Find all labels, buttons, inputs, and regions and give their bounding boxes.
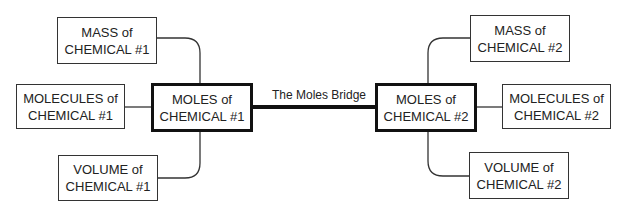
box-label-line1: VOLUME of bbox=[73, 161, 142, 178]
molecules-chemical-2-box: MOLECULES of CHEMICAL #2 bbox=[502, 84, 611, 129]
box-label-line1: MASS of bbox=[494, 22, 545, 39]
box-label-line1: MOLES of bbox=[172, 91, 232, 108]
box-label-line2: CHEMICAL #1 bbox=[28, 107, 113, 124]
box-label-line2: CHEMICAL #1 bbox=[65, 41, 150, 58]
moles-chemical-2-box: MOLES of CHEMICAL #2 bbox=[375, 83, 477, 132]
moles-chemical-1-box: MOLES of CHEMICAL #1 bbox=[151, 83, 253, 132]
box-label-line1: MOLECULES of bbox=[509, 90, 604, 107]
molecules-chemical-1-box: MOLECULES of CHEMICAL #1 bbox=[16, 84, 125, 129]
box-label-line1: MASS of bbox=[81, 24, 132, 41]
mass-chemical-2-box: MASS of CHEMICAL #2 bbox=[470, 15, 570, 62]
box-label-line2: CHEMICAL #2 bbox=[384, 108, 469, 125]
box-label-line2: CHEMICAL #1 bbox=[66, 178, 151, 195]
bridge-label: The Moles Bridge bbox=[272, 88, 366, 102]
box-label-line1: MOLECULES of bbox=[23, 90, 118, 107]
box-label-line1: MOLES of bbox=[396, 91, 456, 108]
volume-chemical-2-box: VOLUME of CHEMICAL #2 bbox=[469, 152, 569, 199]
box-label-line2: CHEMICAL #2 bbox=[514, 107, 599, 124]
box-label-line2: CHEMICAL #1 bbox=[160, 108, 245, 125]
box-label-line2: CHEMICAL #2 bbox=[478, 39, 563, 56]
box-label-line1: VOLUME of bbox=[484, 159, 553, 176]
mass-chemical-1-box: MASS of CHEMICAL #1 bbox=[57, 17, 157, 64]
box-label-line2: CHEMICAL #2 bbox=[477, 176, 562, 193]
volume-chemical-1-box: VOLUME of CHEMICAL #1 bbox=[58, 155, 158, 201]
